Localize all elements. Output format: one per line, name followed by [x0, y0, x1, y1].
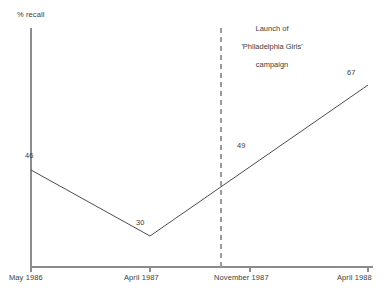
x-tick-label-november-1987: November 1987 — [214, 274, 269, 282]
data-label-april-1987: 30 — [136, 219, 145, 227]
x-tick-label-april-1987: April 1987 — [124, 274, 159, 282]
campaign-annotation: Launch of 'Philadelphia Girls' campaign — [222, 20, 322, 74]
campaign-annotation-line-1: Launch of — [222, 20, 322, 38]
campaign-annotation-line-3: campaign — [222, 56, 322, 74]
x-tick-label-april-1988: April 1988 — [337, 274, 372, 282]
data-label-may-1986: 46 — [25, 152, 34, 160]
chart-canvas — [0, 0, 392, 296]
x-tick-label-may-1986: May 1986 — [9, 274, 43, 282]
y-axis-label: % recall — [17, 11, 44, 19]
recall-series-line — [31, 85, 368, 236]
line-chart: % recall 46 30 49 67 May 1986 April 1987… — [0, 0, 392, 296]
campaign-annotation-line-2: 'Philadelphia Girls' — [222, 38, 322, 56]
data-label-november-1987: 49 — [237, 142, 246, 150]
data-label-april-1988: 67 — [347, 69, 356, 77]
